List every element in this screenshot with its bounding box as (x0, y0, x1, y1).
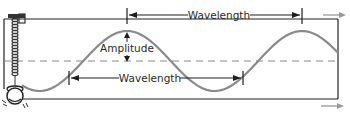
coil-spring-icon (8, 14, 25, 86)
arrow-right-icon (323, 12, 346, 18)
amplitude-label: Amplitude (100, 42, 154, 54)
wave-diagram: Wavelength Amplitude Wavelength (0, 0, 350, 113)
wavelength-bottom-annotation: Wavelength (69, 71, 243, 85)
hanging-weight-icon (2, 86, 28, 108)
arrow-right-icon (321, 103, 344, 109)
wavelength-top-label: Wavelength (188, 9, 250, 21)
wavelength-top-annotation: Wavelength (127, 8, 302, 24)
spring-coil (12, 72, 18, 75)
wavelength-bottom-label: Wavelength (119, 72, 181, 84)
